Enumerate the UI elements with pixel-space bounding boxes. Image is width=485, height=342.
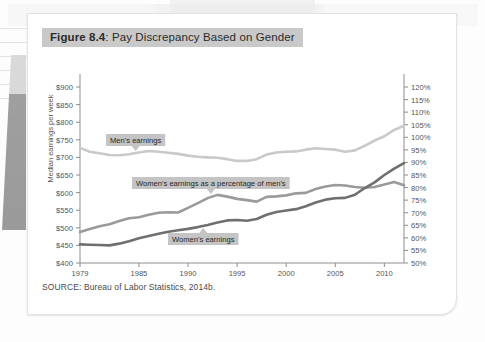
right-tick-label: 105%: [411, 121, 431, 130]
line-chart-svg: $400$450$500$550$600$650$700$750$800$850…: [28, 14, 456, 276]
x-tick-label: 1985: [130, 269, 147, 276]
screenshot-page: Figure 8.4: Pay Discrepancy Based on Gen…: [0, 0, 485, 342]
figure-card: Figure 8.4: Pay Discrepancy Based on Gen…: [27, 13, 457, 315]
left-tick-label: $750: [56, 136, 73, 145]
left-tick-label: $500: [56, 224, 73, 233]
left-tick-label: $450: [56, 241, 73, 250]
right-tick-label: 85%: [411, 171, 426, 180]
left-tick-label: $400: [56, 259, 73, 268]
series-line: [80, 163, 404, 245]
x-tick-label: 2010: [376, 269, 393, 276]
left-tick-label: $550: [56, 206, 73, 215]
left-axis-title: Median earnings per week: [46, 79, 55, 199]
right-tick-label: 90%: [411, 158, 426, 167]
left-axis-ticks: $400$450$500$550$600$650$700$750$800$850…: [56, 83, 80, 268]
left-tick-label: $900: [56, 83, 73, 92]
right-tick-label: 60%: [411, 234, 426, 243]
chart-axes: [80, 74, 404, 263]
callout-ratio-label: Women's earnings as a percentage of men'…: [136, 179, 286, 188]
x-tick-label: 1995: [229, 269, 246, 276]
left-tick-label: $600: [56, 189, 73, 198]
x-tick-label: 1979: [72, 269, 89, 276]
x-tick-label: 2005: [327, 269, 344, 276]
right-tick-label: 110%: [411, 108, 430, 117]
left-tick-label: $650: [56, 171, 73, 180]
callout-womens-label: Women's earnings: [172, 235, 235, 244]
right-axis-ticks: 50%55%60%65%70%75%80%85%90%95%100%105%11…: [404, 83, 431, 268]
left-tick-label: $700: [56, 153, 73, 162]
callout-mens-earnings: Men's earnings: [106, 134, 165, 151]
callout-mens-label: Men's earnings: [110, 136, 161, 145]
right-tick-label: 120%: [411, 83, 431, 92]
figure-source: SOURCE: Bureau of Labor Statistics, 2014…: [42, 282, 215, 292]
callout-ratio: Women's earnings as a percentage of men'…: [132, 177, 290, 194]
right-tick-label: 95%: [411, 146, 426, 155]
right-tick-label: 115%: [411, 96, 430, 105]
left-tick-label: $850: [56, 101, 73, 110]
right-tick-label: 80%: [411, 184, 426, 193]
right-tick-label: 50%: [411, 259, 426, 268]
right-tick-label: 55%: [411, 246, 426, 255]
chart-plot-area: $400$450$500$550$600$650$700$750$800$850…: [28, 14, 456, 314]
right-tick-label: 65%: [411, 221, 426, 230]
x-tick-label: 2000: [278, 269, 295, 276]
right-tick-label: 100%: [411, 133, 431, 142]
right-tick-label: 70%: [411, 209, 426, 218]
x-axis-ticks: 1979198519901995200020052010: [72, 263, 393, 276]
x-tick-label: 1990: [180, 269, 197, 276]
right-tick-label: 75%: [411, 196, 426, 205]
left-tick-label: $800: [56, 118, 73, 127]
series-line: [80, 182, 404, 232]
